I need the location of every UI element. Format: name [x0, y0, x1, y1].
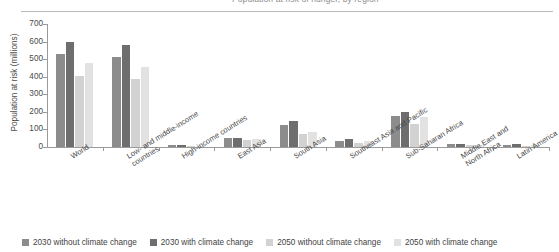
bar [447, 144, 456, 147]
bar [456, 144, 465, 148]
chart-legend: 2030 without climate change2030 with cli… [22, 238, 510, 247]
chart-figure: Population at risk of hunger, by region … [0, 0, 559, 252]
bar [75, 76, 84, 147]
bar [512, 144, 521, 147]
legend-label: 2030 without climate change [33, 238, 137, 247]
bar [85, 63, 94, 147]
legend-swatch [22, 239, 29, 246]
bar [335, 141, 344, 147]
bar [233, 138, 242, 147]
y-tick [43, 147, 47, 148]
bar-group [335, 24, 372, 147]
x-tick [103, 147, 104, 151]
x-tick [437, 147, 438, 151]
bar [56, 54, 65, 147]
bar [131, 79, 140, 147]
y-tick-label: 700 [19, 19, 43, 28]
y-axis-label: Population at risk (millions) [10, 18, 19, 148]
bar [289, 121, 298, 147]
legend-item: 2030 without climate change [22, 238, 137, 247]
legend-item: 2050 with climate change [394, 238, 497, 247]
legend-label: 2030 with climate change [161, 238, 253, 247]
bar [280, 125, 289, 147]
y-axis-line [47, 24, 48, 147]
y-tick [43, 129, 47, 130]
y-tick-label: 0 [19, 142, 43, 151]
chart-title-clipped: Population at risk of hunger, by region [0, 0, 559, 7]
legend-label: 2050 with climate change [405, 238, 497, 247]
x-tick [214, 147, 215, 151]
bar-group [280, 24, 317, 147]
bar [345, 139, 354, 147]
bar [177, 145, 186, 147]
y-tick-label: 500 [19, 54, 43, 63]
x-tick [270, 147, 271, 151]
y-tick-label: 300 [19, 89, 43, 98]
bar-group [56, 24, 93, 147]
y-tick [43, 42, 47, 43]
y-tick [43, 112, 47, 113]
bar [112, 57, 121, 147]
y-tick-label: 200 [19, 107, 43, 116]
y-tick [43, 77, 47, 78]
chart-title-text: Population at risk of hunger, by region [232, 0, 379, 4]
legend-item: 2050 without climate change [266, 238, 381, 247]
bar-group [112, 24, 149, 147]
bar [66, 42, 75, 147]
bar [224, 138, 233, 147]
bar [122, 45, 131, 147]
bar [141, 67, 150, 147]
x-tick [549, 147, 550, 151]
plot-area: 0100200300400500600700 [47, 24, 549, 147]
legend-swatch [150, 239, 157, 246]
header-divider [21, 11, 553, 12]
legend-item: 2030 with climate change [150, 238, 253, 247]
legend-swatch [266, 239, 273, 246]
y-tick [43, 94, 47, 95]
y-tick-label: 600 [19, 37, 43, 46]
legend-swatch [394, 239, 401, 246]
legend-label: 2050 without climate change [277, 238, 381, 247]
y-tick [43, 24, 47, 25]
x-tick [382, 147, 383, 151]
y-tick-label: 100 [19, 124, 43, 133]
x-tick [326, 147, 327, 151]
y-tick-label: 400 [19, 72, 43, 81]
y-tick [43, 59, 47, 60]
